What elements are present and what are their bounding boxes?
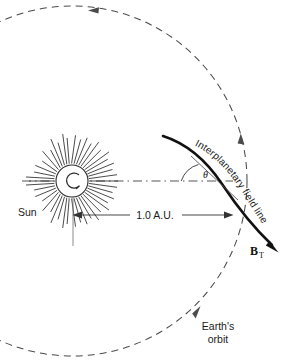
distance-label: 1.0 A.U. <box>136 209 173 221</box>
orbit-arrow-right-icon <box>238 134 245 145</box>
earth-orbit-label-line1: Earth's <box>202 320 234 332</box>
interplanetary-field-diagram: Interplanetary field line θ B T 1.0 A.U.… <box>0 0 298 364</box>
sun-disk <box>56 165 88 197</box>
dimension-arrow-right-icon <box>224 211 234 218</box>
distance-dimension-group: 1.0 A.U. <box>73 196 234 246</box>
earth-orbit-label-line2: orbit <box>208 333 229 345</box>
orbit-arrow-bottom-icon <box>192 306 200 319</box>
field-vector-label-group: B T <box>250 244 264 260</box>
earth-orbit-label-group: Earth's orbit <box>202 320 234 345</box>
field-vector-label: B <box>250 244 258 258</box>
sun-label: Sun <box>18 206 37 218</box>
orbit-arrow-top-icon <box>88 7 99 13</box>
field-vector-subscript: T <box>259 251 264 260</box>
sun-symbol <box>26 134 118 228</box>
angle-arc <box>181 165 198 182</box>
diagram-canvas: Interplanetary field line θ B T 1.0 A.U.… <box>0 0 298 364</box>
angle-label: θ <box>203 169 208 180</box>
